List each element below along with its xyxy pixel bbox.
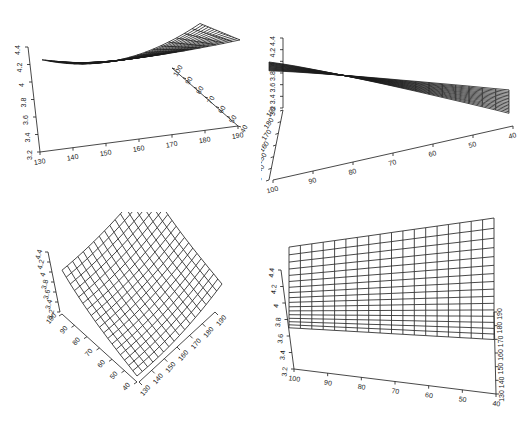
tick-label: 4: [18, 83, 25, 87]
y-axis: 190180170160150140130: [261, 105, 283, 189]
tick-label: 70: [83, 347, 93, 358]
tick-label: 60: [96, 358, 106, 369]
tick-label: 190: [215, 314, 228, 328]
tick-label: 50: [108, 370, 118, 381]
tick-label: 160: [497, 349, 504, 361]
tick-label: 4.2: [269, 48, 276, 58]
tick-label: 60: [217, 104, 227, 114]
tick-label: 140: [498, 376, 505, 388]
tick-label: 40: [121, 381, 131, 392]
tick-label: 130: [33, 157, 46, 166]
tick-label: 70: [391, 387, 400, 395]
tick-label: 160: [132, 144, 145, 153]
tick-label: 140: [66, 153, 79, 162]
tick-label: 170: [189, 337, 202, 351]
tick-label: 160: [177, 349, 190, 363]
tick-label: 60: [425, 391, 434, 399]
tick-label: 100: [172, 64, 184, 78]
surface-plot-bottom-right: 3.23.43.63.844.24.4100908070605040130140…: [261, 212, 521, 423]
tick-label: 90: [324, 379, 333, 387]
tick-label: 3.8: [269, 71, 276, 81]
tick-label: 130: [261, 175, 263, 189]
tick-label: 90: [184, 75, 194, 85]
surface-plot-top-right: 3.23.43.63.844.24.4190180170160150140130…: [261, 0, 521, 211]
tick-label: 140: [151, 372, 164, 386]
y-axis: 130140150160170180190: [494, 308, 505, 402]
tick-label: 180: [202, 325, 215, 339]
tick-label: 3.8: [20, 98, 27, 108]
tick-label: 170: [261, 128, 273, 142]
tick-label: 130: [139, 384, 152, 398]
tick-label: 170: [497, 335, 504, 347]
tick-label: 4.2: [270, 284, 278, 294]
y-axis: 405060708090100: [172, 64, 249, 134]
tick-label: 50: [458, 395, 467, 403]
tick-label: 3.6: [269, 83, 276, 93]
tick-label: 150: [497, 363, 504, 375]
tick-label: 80: [348, 167, 357, 176]
tick-label: 4: [39, 271, 47, 277]
tick-label: 40: [508, 131, 517, 140]
tick-label: 3.6: [22, 115, 29, 125]
tick-label: 190: [496, 308, 503, 320]
x-axis: 100908070605040: [288, 369, 501, 408]
tick-label: 3.8: [40, 279, 49, 290]
tick-label: 60: [428, 149, 437, 158]
surface-mesh: [42, 24, 240, 65]
surface-svg: 3.23.43.63.844.24.4100908070605040130140…: [261, 212, 521, 423]
z-axis: 3.23.43.63.844.24.4: [34, 249, 60, 320]
surface-svg: 3.23.43.63.844.24.4130140150160170180190…: [0, 0, 260, 211]
tick-label: 80: [195, 85, 205, 95]
surface-mesh: [289, 218, 494, 340]
surface-plot-bottom-left: 3.23.43.63.844.24.4100908070605040130140…: [0, 212, 260, 423]
surface-svg: 3.23.43.63.844.24.4190180170160150140130…: [261, 0, 521, 211]
surface-svg: 3.23.43.63.844.24.4100908070605040130140…: [0, 212, 260, 423]
tick-label: 180: [496, 322, 503, 334]
tick-label: 90: [58, 324, 68, 335]
tick-label: 140: [261, 163, 266, 177]
tick-label: 4.4: [268, 268, 276, 278]
tick-label: 150: [99, 148, 112, 157]
tick-label: 40: [239, 124, 249, 134]
tick-label: 170: [165, 140, 178, 149]
tick-label: 70: [388, 158, 397, 167]
tick-label: 70: [206, 95, 216, 105]
tick-label: 3.2: [26, 150, 33, 160]
tick-label: 3.8: [274, 317, 282, 327]
tick-label: 100: [288, 374, 301, 383]
tick-label: 130: [498, 390, 505, 402]
tick-label: 3.4: [24, 133, 31, 143]
tick-label: 100: [266, 185, 279, 195]
tick-label: 4.4: [34, 249, 43, 260]
tick-label: 150: [261, 151, 268, 165]
tick-label: 4.2: [16, 63, 23, 73]
tick-label: 4: [269, 62, 276, 66]
tick-label: 4.4: [14, 45, 21, 55]
surface-mesh: [269, 62, 509, 113]
tick-label: 80: [357, 383, 366, 391]
tick-label: 3.2: [281, 367, 289, 377]
tick-label: 3.4: [269, 94, 276, 104]
surface-plot-top-left: 3.23.43.63.844.24.4130140150160170180190…: [0, 0, 260, 211]
tick-label: 50: [228, 114, 238, 124]
tick-label: 160: [261, 140, 270, 154]
tick-label: 180: [198, 135, 211, 144]
tick-label: 80: [71, 336, 81, 347]
tick-label: 150: [164, 360, 177, 374]
tick-label: 50: [468, 140, 477, 149]
tick-label: 4.4: [269, 36, 276, 46]
x-axis: 100908070605040: [266, 126, 517, 194]
tick-label: 90: [308, 176, 317, 185]
z-axis: 3.23.43.63.844.24.4: [269, 36, 283, 116]
z-axis: 3.23.43.63.844.24.4: [14, 45, 40, 160]
tick-label: 3.6: [276, 334, 284, 344]
z-axis: 3.23.43.63.844.24.4: [268, 268, 294, 377]
tick-label: 3.4: [278, 350, 286, 360]
x-axis: 130140150160170180190: [33, 126, 244, 166]
tick-label: 180: [262, 116, 274, 130]
tick-label: 4: [272, 303, 279, 308]
